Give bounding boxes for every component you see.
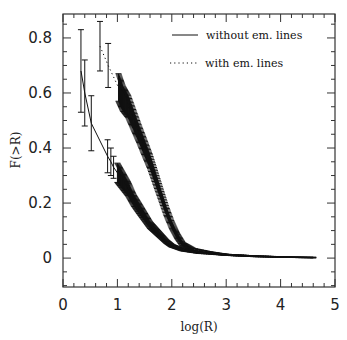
x-tick-label: 2: [167, 296, 177, 314]
x-tick-label: 3: [221, 296, 231, 314]
legend-label-without-em-lines: without em. lines: [206, 29, 303, 42]
legend-label-with-em-lines: with em. lines: [205, 57, 283, 70]
x-tick-label: 0: [58, 296, 68, 314]
y-tick-label: 0.4: [28, 139, 52, 157]
y-axis-title: F(>R): [9, 132, 23, 169]
y-tick-label: 0.2: [28, 194, 52, 212]
x-tick-label: 5: [330, 296, 340, 314]
y-tick-label: 0.8: [28, 29, 52, 47]
legend: without em. lines with em. lines: [170, 29, 303, 70]
x-tick-label: 4: [276, 296, 286, 314]
x-tick-label: 1: [113, 296, 123, 314]
x-axis-title: log(R): [180, 320, 217, 334]
chart-figure: 01234500.20.40.60.8 log(R) F(>R) without…: [0, 0, 347, 340]
y-tick-label: 0.6: [28, 84, 52, 102]
y-tick-label: 0: [42, 249, 52, 267]
axis-tick-labels: 01234500.20.40.60.8: [28, 29, 340, 314]
